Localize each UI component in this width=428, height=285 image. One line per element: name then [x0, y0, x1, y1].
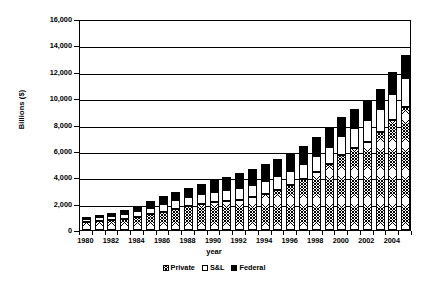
- x-axis-tick-mark: [92, 231, 93, 235]
- bar-segment-sandl: [146, 208, 155, 215]
- bar-segment-private: [184, 206, 193, 230]
- bar-segment-private: [222, 201, 231, 230]
- x-axis-tick-mark: [245, 231, 246, 235]
- bar-segment-federal: [120, 210, 129, 214]
- x-axis-tick-mark: [258, 231, 259, 235]
- bar-segment-private: [350, 148, 359, 230]
- gridline: [80, 74, 410, 75]
- y-axis-tick-label: 2,000: [28, 200, 72, 209]
- y-axis-tick-label: 6,000: [28, 147, 72, 156]
- x-axis-tick-mark: [283, 231, 284, 235]
- legend-label-private: Private: [171, 263, 195, 272]
- bar-segment-federal: [107, 213, 116, 216]
- bar-segment-federal: [299, 146, 308, 164]
- bar-segment-federal: [388, 72, 397, 93]
- bar-segment-federal: [273, 159, 282, 176]
- bar-segment-private: [133, 217, 142, 230]
- bar-segment-sandl: [337, 136, 346, 154]
- y-axis-tick-label: 12,000: [28, 68, 72, 77]
- bar-segment-sandl: [107, 216, 116, 220]
- y-axis-tick-label: 16,000: [28, 15, 72, 24]
- bar-segment-sandl: [299, 164, 308, 179]
- gridline: [80, 153, 410, 154]
- gridline: [80, 47, 410, 48]
- bar-segment-private: [401, 107, 410, 230]
- x-axis-tick-mark: [194, 231, 195, 235]
- x-axis-tick-mark: [347, 231, 348, 235]
- bar-segment-sandl: [120, 214, 129, 219]
- x-axis-tick-mark: [309, 231, 310, 235]
- gridline: [80, 100, 410, 101]
- x-axis-tick-mark: [168, 231, 169, 235]
- bar-segment-federal: [325, 127, 334, 147]
- x-axis-tick-mark: [360, 231, 361, 235]
- bar-segment-private: [197, 204, 206, 230]
- y-axis-tick-label: 10,000: [28, 94, 72, 103]
- x-axis-tick-mark: [156, 231, 157, 235]
- chart-legend: Private S&L Federal: [0, 263, 428, 272]
- bar-segment-federal: [350, 109, 359, 127]
- bar-segment-private: [376, 132, 385, 230]
- bar-segment-federal: [197, 184, 206, 195]
- bar-segment-federal: [376, 89, 385, 109]
- gridline: [80, 206, 410, 207]
- bar-segment-sandl: [286, 171, 295, 186]
- bar-segment-federal: [248, 169, 257, 185]
- bar-segment-federal: [286, 153, 295, 171]
- legend-label-federal: Federal: [239, 263, 265, 272]
- bar-segment-private: [95, 221, 104, 230]
- legend-item-federal: Federal: [231, 263, 265, 272]
- bar-segment-sandl: [248, 185, 257, 198]
- legend-swatch-federal-icon: [231, 265, 237, 271]
- bar-segment-federal: [235, 173, 244, 188]
- y-axis-tick-label: 0: [28, 226, 72, 235]
- bar-segment-sandl: [363, 120, 372, 142]
- x-axis-tick-mark: [322, 231, 323, 235]
- bar-segment-private: [146, 214, 155, 230]
- bar-segment-private: [261, 194, 270, 230]
- gridline: [80, 127, 410, 128]
- bar-segment-private: [363, 142, 372, 230]
- bar-segment-private: [210, 202, 219, 230]
- plot-area: [79, 20, 411, 231]
- bar-segment-federal: [184, 188, 193, 197]
- bar-segment-private: [312, 172, 321, 230]
- bar-segment-private: [107, 220, 116, 230]
- bar-segment-private: [235, 200, 244, 230]
- x-axis-tick-mark: [117, 231, 118, 235]
- x-axis-tick-mark: [271, 231, 272, 235]
- x-axis-tick-mark: [334, 231, 335, 235]
- x-axis-tick-mark: [296, 231, 297, 235]
- bar-segment-private: [248, 197, 257, 230]
- bar-segment-sandl: [184, 197, 193, 206]
- bar-segment-federal: [337, 117, 346, 136]
- bar-segment-sandl: [273, 176, 282, 190]
- bar-segment-private: [286, 185, 295, 230]
- bar-segment-federal: [261, 164, 270, 180]
- x-axis-tick-mark: [232, 231, 233, 235]
- x-axis-tick-mark: [411, 231, 412, 235]
- y-axis-tick-label: 8,000: [28, 121, 72, 130]
- bar-segment-sandl: [210, 192, 219, 202]
- x-axis-tick-mark: [373, 231, 374, 235]
- bar-segment-sandl: [388, 94, 397, 120]
- bar-segment-private: [337, 155, 346, 230]
- x-axis-tick-mark: [105, 231, 106, 235]
- bar-segment-federal: [95, 215, 104, 218]
- bar-segment-federal: [210, 180, 219, 192]
- bar-segment-sandl: [222, 190, 231, 201]
- bar-segment-sandl: [133, 211, 142, 217]
- x-axis-tick-mark: [398, 231, 399, 235]
- x-axis-tick-mark: [79, 231, 80, 235]
- legend-item-private: Private: [163, 263, 195, 272]
- x-axis-tick-mark: [219, 231, 220, 235]
- x-axis-label: year: [0, 247, 428, 256]
- bar-segment-federal: [146, 201, 155, 207]
- bar-segment-sandl: [376, 109, 385, 133]
- bar-segment-sandl: [261, 181, 270, 194]
- bar-segment-federal: [159, 196, 168, 203]
- bar-segment-sandl: [197, 194, 206, 203]
- gridline: [80, 179, 410, 180]
- bar-segment-sandl: [82, 219, 91, 222]
- x-axis-tick-mark: [207, 231, 208, 235]
